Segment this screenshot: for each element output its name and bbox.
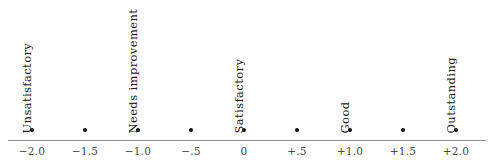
axis-line xyxy=(8,140,486,141)
axis-tick-label: 0 xyxy=(241,145,248,157)
data-point xyxy=(295,128,299,132)
category-label-needs-improvement: Needs improvement xyxy=(128,9,140,134)
axis-tick-label: +.5 xyxy=(287,145,306,157)
axis-tick-label: +1.5 xyxy=(390,145,416,157)
axis-tick-label: −1.0 xyxy=(125,145,151,157)
axis-tick-label: +1.0 xyxy=(337,145,363,157)
data-point xyxy=(30,128,34,132)
data-point xyxy=(83,128,87,132)
axis-tick-label: +2.0 xyxy=(443,145,469,157)
data-point xyxy=(401,128,405,132)
axis-tick-label: −1.5 xyxy=(72,145,98,157)
category-label-satisfactory: Satisfactory xyxy=(234,59,246,134)
data-point xyxy=(189,128,193,132)
data-point xyxy=(454,128,458,132)
data-point xyxy=(136,128,140,132)
data-point xyxy=(348,128,352,132)
category-label-unsatisfactory: Unsatisfactory xyxy=(22,43,34,134)
data-point xyxy=(242,128,246,132)
category-label-outstanding: Outstanding xyxy=(446,57,458,133)
axis-tick-label: −2.0 xyxy=(19,145,45,157)
axis-tick-label: −.5 xyxy=(181,145,200,157)
rating-scale-figure: Unsatisfactory Needs improvement Satisfa… xyxy=(0,0,496,163)
